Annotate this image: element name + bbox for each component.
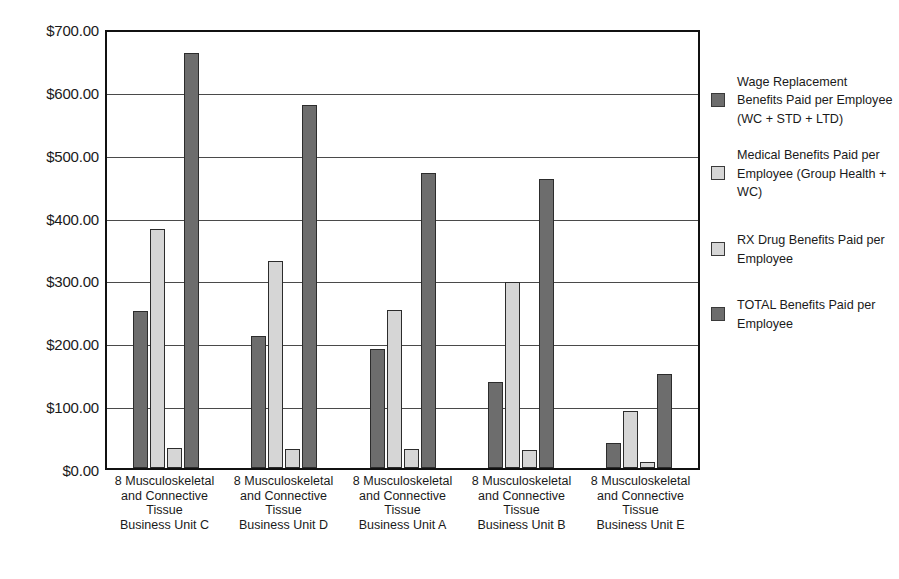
category-label-line: Tissue	[463, 503, 580, 518]
y-axis-tick-label: $100.00	[46, 399, 99, 416]
x-axis-category-label: 8 Musculoskeletaland ConnectiveTissueBus…	[343, 474, 462, 564]
bar[interactable]	[167, 448, 182, 468]
bar-group	[225, 32, 343, 468]
legend-label: Medical Benefits Paid per Employee (Grou…	[737, 148, 886, 199]
bar-group	[107, 32, 225, 468]
x-axis-category-labels: 8 Musculoskeletaland ConnectiveTissueBus…	[105, 474, 700, 564]
x-axis-category-label: 8 Musculoskeletaland ConnectiveTissueBus…	[581, 474, 700, 564]
category-label-line: and Connective	[582, 489, 699, 504]
bar-groups	[107, 32, 698, 468]
category-label-line: and Connective	[463, 489, 580, 504]
x-axis-category-label: 8 Musculoskeletaland ConnectiveTissueBus…	[462, 474, 581, 564]
y-axis-tick-label: $500.00	[46, 147, 99, 164]
category-label-line: 8 Musculoskeletal	[463, 474, 580, 489]
category-label-line: Tissue	[225, 503, 342, 518]
bar[interactable]	[623, 411, 638, 468]
y-axis-tick-label: $300.00	[46, 273, 99, 290]
legend-item[interactable]: RX Drug Benefits Paid per Employee	[711, 230, 893, 267]
category-label-line: 8 Musculoskeletal	[582, 474, 699, 489]
bar[interactable]	[133, 311, 148, 468]
plot-area	[105, 30, 700, 470]
bar-group	[343, 32, 461, 468]
bar[interactable]	[539, 179, 554, 468]
x-axis-category-label: 8 Musculoskeletaland ConnectiveTissueBus…	[224, 474, 343, 564]
legend-swatch-icon	[711, 93, 725, 107]
bar[interactable]	[505, 282, 520, 468]
bar[interactable]	[285, 449, 300, 468]
category-label-line: and Connective	[225, 489, 342, 504]
category-label-line: Tissue	[106, 503, 223, 518]
bar[interactable]	[522, 450, 537, 468]
legend-item[interactable]: TOTAL Benefits Paid per Employee	[711, 295, 893, 332]
legend-item[interactable]: Wage Replacement Benefits Paid per Emplo…	[711, 72, 893, 127]
y-axis-tick-label: $0.00	[62, 462, 99, 479]
legend-label: TOTAL Benefits Paid per Employee	[737, 298, 875, 330]
bar[interactable]	[421, 173, 436, 468]
legend-item[interactable]: Medical Benefits Paid per Employee (Grou…	[711, 145, 893, 200]
chart-legend: Wage Replacement Benefits Paid per Emplo…	[711, 72, 893, 349]
legend-label: Wage Replacement Benefits Paid per Emplo…	[737, 75, 892, 126]
y-axis-tick-label: $400.00	[46, 210, 99, 227]
bar[interactable]	[370, 349, 385, 468]
y-axis-tick-labels: $700.00$600.00$500.00$400.00$300.00$200.…	[0, 30, 99, 470]
y-axis-tick-label: $200.00	[46, 336, 99, 353]
category-label-line: 8 Musculoskeletal	[225, 474, 342, 489]
y-axis-tick-label: $600.00	[46, 84, 99, 101]
y-axis-tick-label: $700.00	[46, 22, 99, 39]
category-label-line: 8 Musculoskeletal	[344, 474, 461, 489]
category-label-line: Business Unit E	[582, 518, 699, 533]
bar[interactable]	[606, 443, 621, 468]
category-label-line: Business Unit A	[344, 518, 461, 533]
category-label-line: and Connective	[344, 489, 461, 504]
bar-group	[462, 32, 580, 468]
category-label-line: Business Unit C	[106, 518, 223, 533]
legend-swatch-icon	[711, 307, 725, 321]
bar[interactable]	[640, 462, 655, 468]
legend-swatch-icon	[711, 166, 725, 180]
bar[interactable]	[268, 261, 283, 468]
bar-chart: $700.00$600.00$500.00$400.00$300.00$200.…	[0, 0, 899, 579]
category-label-line: 8 Musculoskeletal	[106, 474, 223, 489]
category-label-line: Business Unit D	[225, 518, 342, 533]
bar[interactable]	[150, 229, 165, 468]
bar[interactable]	[184, 53, 199, 468]
legend-swatch-icon	[711, 242, 725, 256]
category-label-line: Tissue	[344, 503, 461, 518]
category-label-line: Business Unit B	[463, 518, 580, 533]
bar[interactable]	[404, 449, 419, 468]
bar[interactable]	[387, 310, 402, 468]
bar[interactable]	[251, 336, 266, 468]
bar[interactable]	[488, 382, 503, 468]
bar[interactable]	[657, 374, 672, 468]
legend-label: RX Drug Benefits Paid per Employee	[737, 233, 885, 265]
category-label-line: Tissue	[582, 503, 699, 518]
category-label-line: and Connective	[106, 489, 223, 504]
bar-group	[580, 32, 698, 468]
bar[interactable]	[302, 105, 317, 468]
x-axis-category-label: 8 Musculoskeletaland ConnectiveTissueBus…	[105, 474, 224, 564]
